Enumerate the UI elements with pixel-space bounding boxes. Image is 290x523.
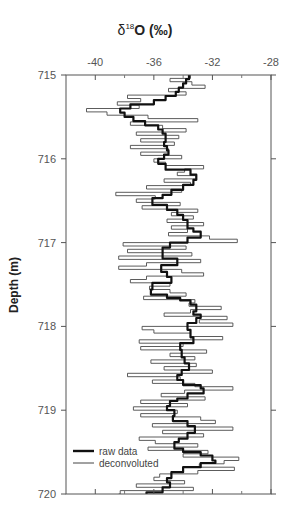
- series-deconvoluted: [87, 75, 239, 494]
- y-tick-label: 718: [38, 320, 56, 332]
- series-layer: [87, 75, 239, 494]
- y-tick-label: 720: [38, 488, 56, 500]
- y-tick-label: 717: [38, 237, 56, 249]
- y-axis: 715716717718719720: [38, 69, 276, 500]
- x-tick-label: -40: [87, 56, 103, 68]
- x-tick-label: -28: [263, 56, 279, 68]
- y-tick-label: 715: [38, 69, 56, 81]
- series-raw-data: [120, 75, 215, 494]
- legend-raw-label: raw data: [99, 446, 138, 457]
- x-tick-label: -32: [204, 56, 220, 68]
- legend: raw data deconvoluted: [73, 446, 159, 469]
- y-tick-label: 716: [38, 153, 56, 165]
- x-tick-label: -36: [146, 56, 162, 68]
- legend-deconvoluted-label: deconvoluted: [99, 458, 159, 469]
- plot-frame: [66, 75, 271, 494]
- y-tick-label: 719: [38, 404, 56, 416]
- chart-plot: -40-36-32-28 715716717718719720 raw data…: [0, 0, 290, 523]
